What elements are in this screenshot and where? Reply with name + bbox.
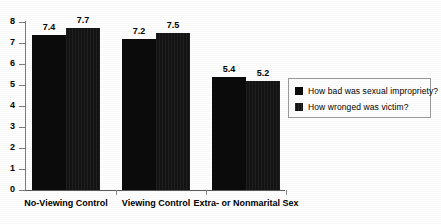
bar: [122, 39, 156, 190]
y-axis-tick-label: 0: [1, 185, 15, 194]
x-axis-separator-tick: [286, 190, 287, 195]
bar: [246, 81, 280, 190]
y-axis-tick: [19, 148, 26, 149]
y-axis-tick-label: 4: [1, 101, 15, 110]
y-axis-tick: [19, 43, 26, 44]
y-axis-tick: [19, 169, 26, 170]
x-axis-category-label: Extra- or Nonmarital Sex: [186, 198, 306, 208]
chart-legend: How bad was sexual impropriety? How wron…: [288, 78, 431, 118]
bar-chart: 012345678 7.47.77.27.55.45.2 No-Viewing …: [0, 0, 441, 224]
y-axis-tick: [19, 190, 26, 191]
legend-item: How bad was sexual impropriety?: [295, 85, 438, 97]
y-axis-tick-label: 8: [1, 17, 15, 26]
y-axis-tick: [19, 106, 26, 107]
y-axis-tick-label: 7: [1, 38, 15, 47]
bar: [212, 77, 246, 190]
bar-value-label: 7.5: [156, 21, 190, 30]
x-axis-line: [25, 190, 285, 191]
y-axis-tick-label: 3: [1, 122, 15, 131]
legend-label-series-0: How bad was sexual impropriety?: [308, 87, 438, 96]
bar: [156, 33, 190, 191]
bar-value-label: 7.7: [66, 16, 100, 25]
y-axis-tick: [19, 22, 26, 23]
bar: [32, 35, 66, 190]
y-axis-tick-label: 6: [1, 59, 15, 68]
bar-value-label: 5.4: [212, 65, 246, 74]
legend-swatch-series-0: [295, 87, 303, 95]
y-axis-tick-label: 2: [1, 143, 15, 152]
y-axis-tick-label: 5: [1, 80, 15, 89]
y-axis-tick: [19, 64, 26, 65]
bar-value-label: 7.4: [32, 23, 66, 32]
y-axis-tick: [19, 85, 26, 86]
y-axis-tick: [19, 127, 26, 128]
bar-value-label: 7.2: [122, 27, 156, 36]
bar: [66, 28, 100, 190]
bar-value-label: 5.2: [246, 69, 280, 78]
legend-label-series-1: How wronged was victim?: [308, 103, 409, 112]
x-axis-separator-tick: [116, 190, 117, 195]
legend-swatch-series-1: [295, 103, 303, 111]
x-axis-separator-tick: [206, 190, 207, 195]
y-axis-tick-label: 1: [1, 164, 15, 173]
legend-item: How wronged was victim?: [295, 101, 409, 113]
